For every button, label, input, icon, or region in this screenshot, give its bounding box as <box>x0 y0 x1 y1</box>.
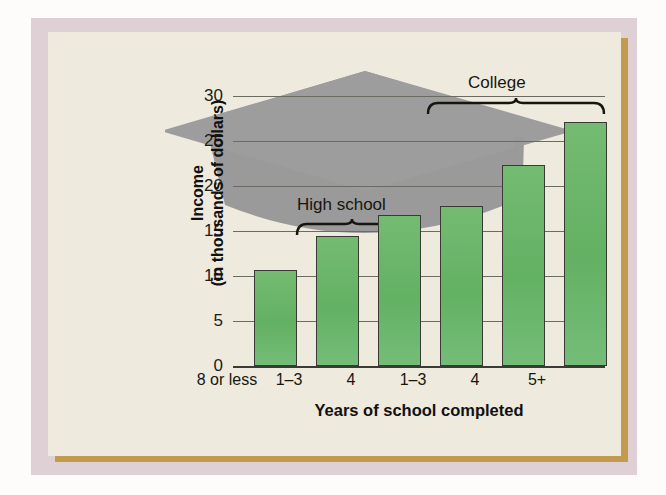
chart-page: 0 5 10 15 20 25 30 High school College <box>0 0 666 495</box>
college-label: College <box>468 73 526 93</box>
x-axis-title: Years of school completed <box>233 401 605 420</box>
bar-hs-1-3[interactable] <box>316 236 359 367</box>
bar-8-or-less[interactable] <box>254 270 297 366</box>
bar-col-1-3[interactable] <box>440 206 483 366</box>
x-axis-line <box>233 366 605 368</box>
bar-col-4[interactable] <box>502 165 545 366</box>
y-axis-title-line1: Income <box>188 78 208 308</box>
bar-col-5plus[interactable] <box>564 122 607 366</box>
y-axis-title-line2: (in thousands of dollars) <box>208 78 228 308</box>
y-axis-title: Income (in thousands of dollars) <box>188 78 228 308</box>
plot-area: 0 5 10 15 20 25 30 High school College <box>185 95 605 410</box>
chart-panel: 0 5 10 15 20 25 30 High school College <box>48 32 621 456</box>
x-tick-label-5: 5+ <box>494 371 580 389</box>
bar-series <box>233 95 605 366</box>
y-tick-label-5: 5 <box>183 311 223 331</box>
bar-hs-4[interactable] <box>378 215 421 366</box>
